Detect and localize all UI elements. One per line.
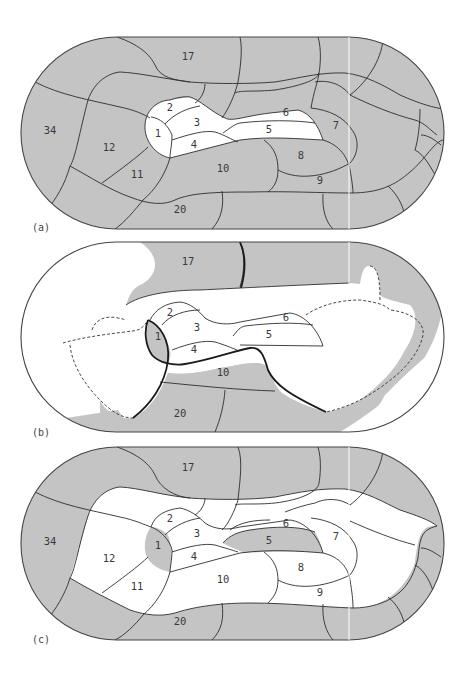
label-b-5: 5: [266, 328, 272, 340]
panel-b-caption: (b): [32, 427, 50, 438]
label-a-9: 9: [317, 174, 323, 186]
label-a-4: 4: [191, 138, 197, 150]
label-c-2: 2: [167, 512, 173, 524]
panel-a: 17 34 12 11 2 3 1 4 6 5 7 8 10 9 20 (a): [21, 37, 444, 233]
figure-canvas: 17 34 12 11 2 3 1 4 6 5 7 8 10 9 20 (a): [0, 0, 467, 681]
label-a-6: 6: [283, 106, 289, 118]
label-c-6: 6: [283, 517, 289, 529]
label-a-17: 17: [182, 50, 195, 62]
label-c-11: 11: [131, 580, 144, 592]
label-c-20: 20: [174, 615, 187, 627]
label-a-10: 10: [217, 162, 230, 174]
label-c-7: 7: [333, 530, 339, 542]
panel-b: 17 2 3 1 4 6 5 10 20 (b): [21, 242, 444, 438]
label-b-10: 10: [217, 366, 230, 378]
label-c-1: 1: [155, 539, 161, 551]
label-c-12: 12: [103, 552, 116, 564]
label-b-3: 3: [194, 321, 200, 333]
label-a-34: 34: [44, 124, 57, 136]
label-b-20: 20: [174, 407, 187, 419]
label-a-5: 5: [266, 123, 272, 135]
label-c-8: 8: [298, 561, 304, 573]
label-c-5: 5: [266, 534, 272, 546]
label-c-9: 9: [317, 586, 323, 598]
panel-c: 17 34 12 11 2 3 1 4 6 5 7 8 10 9 20 (c): [21, 447, 444, 645]
panel-c-caption: (c): [32, 634, 50, 645]
label-c-34: 34: [44, 535, 57, 547]
label-c-3: 3: [194, 527, 200, 539]
label-a-3: 3: [194, 116, 200, 128]
label-b-6: 6: [283, 311, 289, 323]
label-a-1: 1: [155, 127, 161, 139]
label-a-2: 2: [167, 101, 173, 113]
label-b-2: 2: [167, 306, 173, 318]
label-b-17: 17: [182, 255, 195, 267]
label-a-11: 11: [131, 168, 144, 180]
panel-a-caption: (a): [32, 222, 50, 233]
label-a-20: 20: [174, 203, 187, 215]
label-c-4: 4: [191, 550, 197, 562]
label-a-12: 12: [103, 141, 116, 153]
label-b-1: 1: [155, 330, 161, 342]
label-c-17: 17: [182, 461, 195, 473]
label-c-10: 10: [217, 573, 230, 585]
label-b-4: 4: [191, 343, 197, 355]
label-a-7: 7: [333, 119, 339, 131]
label-a-8: 8: [298, 149, 304, 161]
